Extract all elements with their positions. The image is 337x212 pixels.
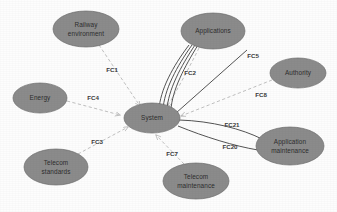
node-authority-label: Authority	[285, 69, 312, 77]
node-applications-label: Applications	[195, 27, 231, 35]
edge-label-fc1: FC1	[106, 66, 118, 73]
edge-label-fc3: FC3	[91, 138, 103, 145]
edge-fc2-curve-1	[159, 45, 189, 110]
edge-fc5-line	[176, 50, 247, 113]
node-application-maintenance[interactable]: Application maintenance	[256, 127, 324, 165]
node-telecom-maintenance-label-line1: Telecom	[184, 173, 209, 180]
node-system[interactable]: System	[124, 103, 180, 133]
node-telecom-standards-label-line1: Telecom	[44, 159, 69, 166]
node-railway-environment-label-line1: Railway	[74, 21, 98, 29]
node-application-maintenance-label-line1: Application	[274, 138, 307, 146]
edge-fc20-line	[178, 126, 258, 150]
node-application-maintenance-label-line2: maintenance	[271, 147, 309, 154]
node-railway-environment[interactable]: Railway environment	[53, 11, 119, 47]
edge-label-fc20: FC20	[222, 143, 238, 150]
node-energy-label: Energy	[30, 94, 52, 102]
edge-fc8-line	[181, 80, 272, 116]
edge-fc3-line	[78, 127, 128, 154]
edge-label-fc2: FC2	[184, 69, 196, 76]
node-railway-environment-label-line2: environment	[68, 30, 104, 37]
node-applications[interactable]: Applications	[181, 13, 245, 49]
node-authority[interactable]: Authority	[270, 58, 326, 88]
node-telecom-standards[interactable]: Telecom standards	[24, 149, 88, 185]
node-energy[interactable]: Energy	[13, 83, 67, 113]
edge-fc1-line	[99, 45, 140, 106]
diagram-canvas: Railway environment Applications Authori…	[0, 0, 337, 212]
edge-label-fc4: FC4	[87, 94, 99, 101]
edge-fc21-line	[179, 120, 262, 139]
edge-fc2-curve-4	[171, 45, 198, 110]
node-telecom-maintenance-label-line2: maintenance	[177, 182, 215, 189]
edge-fc2-curve-2	[163, 45, 192, 110]
node-layer: Railway environment Applications Authori…	[13, 11, 326, 199]
edge-label-fc21: FC21	[224, 121, 240, 128]
node-system-label: System	[141, 114, 163, 122]
edge-fc4-line	[67, 101, 120, 115]
node-telecom-maintenance[interactable]: Telecom maintenance	[163, 163, 229, 199]
node-telecom-standards-label-line2: standards	[42, 168, 71, 175]
edge-label-fc5: FC5	[247, 52, 259, 59]
edge-layer	[67, 45, 272, 164]
edge-label-fc7: FC7	[166, 150, 178, 157]
edge-label-fc8: FC8	[255, 91, 267, 98]
diagram-svg: Railway environment Applications Authori…	[0, 0, 337, 212]
